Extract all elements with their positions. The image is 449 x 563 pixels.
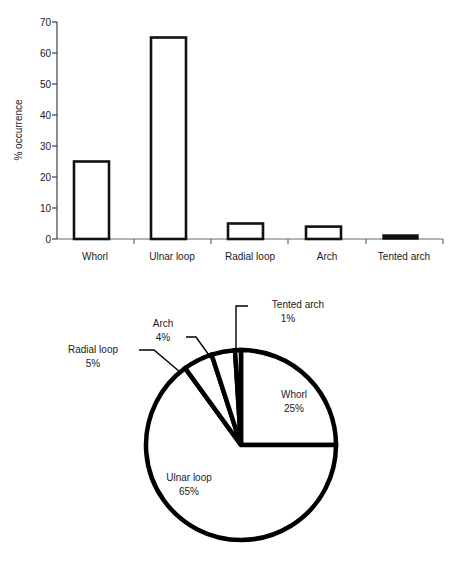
y-tick-label: 60 [40,48,52,59]
pie-value-tented-arch: 1% [281,313,296,324]
x-category-label-arch: Arch [317,251,338,262]
x-category-label-radial-loop: Radial loop [225,251,275,262]
bar-tented-arch [383,235,418,239]
y-axis-title: % occurrence [13,99,24,161]
pie-label-tented-arch: Tented arch [272,299,324,310]
pie-label-whorl: Whorl [281,389,307,400]
bar-whorl [74,162,109,240]
pie-slices [146,350,336,540]
pie-value-ulnar-loop: 65% [179,486,199,497]
x-category-label-tented-arch: Tented arch [378,251,430,262]
bars [74,38,418,240]
pie-value-arch: 4% [156,332,171,343]
pie-label-radial-loop: Radial loop [68,344,118,355]
pie-value-whorl: 25% [284,403,304,414]
y-tick-label: 50 [40,79,52,90]
y-tick-label: 70 [40,17,52,28]
bar-ulnar-loop [151,38,186,240]
y-tick-label: 30 [40,141,52,152]
bar-chart: % occurrence 70 60 50 40 30 20 10 0 [0,0,449,280]
y-tick-label: 40 [40,110,52,121]
y-axis-line [52,22,57,239]
pie-label-arch: Arch [153,318,174,329]
x-category-labels: Whorl Ulnar loop Radial loop Arch Tented… [82,251,430,262]
pie-label-ulnar-loop: Ulnar loop [166,472,212,483]
bar-arch [306,227,341,239]
x-category-label-whorl: Whorl [82,251,108,262]
fingerprint-pattern-figure: % occurrence 70 60 50 40 30 20 10 0 [0,0,449,563]
pie-value-radial-loop: 5% [86,358,101,369]
y-tick-label: 0 [45,234,51,245]
leader-line-radial-loop [139,350,180,372]
y-tick-label: 20 [40,172,52,183]
leader-line-tented-arch [236,306,248,350]
y-tick-labels: 70 60 50 40 30 20 10 0 [40,17,52,245]
x-category-label-ulnar-loop: Ulnar loop [149,251,195,262]
bar-radial-loop [228,224,263,240]
y-tick-label: 10 [40,203,52,214]
pie-chart: Whorl 25% Ulnar loop 65% Radial loop 5% … [0,280,449,563]
